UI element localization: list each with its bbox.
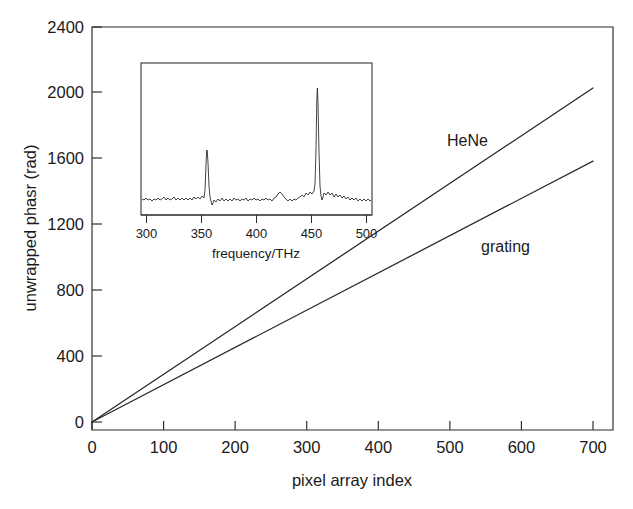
inset-x-axis-title: frequency/THz [212,246,300,261]
inset-spectrum-panel: 300 350 400 450 500 frequency/THz [136,63,378,261]
curve-label-hene: HeNe [447,132,488,149]
y-tick-label-1600: 1600 [47,149,84,167]
figure-canvas: 0 400 800 1200 1600 2000 2400 0 100 200 … [0,0,633,509]
y-tick-label-1200: 1200 [47,215,84,233]
x-tick-label-200: 200 [221,438,249,456]
inset-x-tick-label-450: 450 [301,226,323,241]
phase-plot-figure: 0 400 800 1200 1600 2000 2400 0 100 200 … [0,0,633,509]
inset-x-tick-label-300: 300 [136,226,158,241]
y-axis-title: unwrapped phasr (rad) [21,145,39,312]
inset-x-tick-label-350: 350 [191,226,213,241]
curve-label-grating: grating [481,238,530,255]
inset-x-ticks [147,215,367,223]
x-tick-label-700: 700 [579,438,607,456]
x-tick-label-100: 100 [150,438,178,456]
x-tick-label-600: 600 [508,438,536,456]
y-tick-label-0: 0 [75,413,84,431]
x-tick-labels: 0 100 200 300 400 500 600 700 [87,438,606,456]
x-axis-ticks [92,421,593,430]
inset-x-tick-label-400: 400 [246,226,268,241]
x-axis-title: pixel array index [292,471,413,489]
x-tick-label-0: 0 [87,438,96,456]
inset-x-tick-labels: 300 350 400 450 500 [136,226,378,241]
y-tick-label-400: 400 [56,347,84,365]
x-tick-label-500: 500 [436,438,464,456]
y-tick-labels: 0 400 800 1200 1600 2000 2400 [47,18,84,431]
x-tick-label-400: 400 [365,438,393,456]
y-tick-label-800: 800 [56,281,84,299]
inset-x-tick-label-500: 500 [356,226,378,241]
y-tick-label-2400: 2400 [47,18,84,36]
x-tick-label-300: 300 [293,438,321,456]
y-tick-label-2000: 2000 [47,83,84,101]
y-axis-ticks [92,27,102,422]
